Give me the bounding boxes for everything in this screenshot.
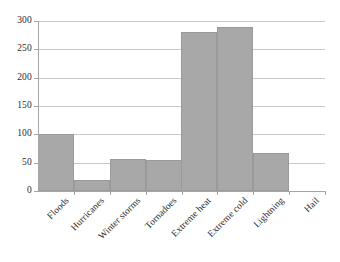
- x-axis-tick-mark: [74, 191, 75, 195]
- x-axis-tick-mark: [182, 191, 183, 195]
- x-axis-tick-mark: [289, 191, 290, 195]
- x-axis-tick-mark: [325, 191, 326, 195]
- x-axis-tick-mark: [217, 191, 218, 195]
- y-axis-tick-label: 150: [17, 101, 32, 111]
- x-axis-tick-mark: [110, 191, 111, 195]
- bar-chart: 050100150200250300 FloodsHurricanesWinte…: [0, 0, 340, 262]
- y-axis-tick-label: 250: [17, 45, 32, 55]
- x-axis-tick-label: Floods: [46, 196, 71, 221]
- x-axis-tick-mark: [146, 191, 147, 195]
- bar: [146, 160, 182, 191]
- bar: [74, 180, 110, 191]
- y-axis-line: [38, 21, 39, 192]
- bar: [253, 153, 289, 191]
- y-axis-tick-label: 50: [22, 158, 32, 168]
- x-axis-tick-label: Lightning: [252, 196, 286, 230]
- bar: [181, 32, 217, 191]
- y-axis-tick-label: 300: [17, 16, 32, 26]
- x-axis-tick-label: Hurricanes: [69, 196, 106, 233]
- y-axis-tick-label: 0: [27, 186, 32, 196]
- x-axis-tick-label: Hail: [303, 196, 322, 215]
- gridline: [38, 21, 325, 22]
- x-axis-tick-mark: [253, 191, 254, 195]
- plot-area: 050100150200250300: [38, 21, 325, 191]
- bar: [38, 134, 74, 191]
- bar: [217, 27, 253, 191]
- bar: [110, 159, 146, 191]
- y-axis-tick-label: 100: [17, 130, 32, 140]
- y-axis-tick-label: 200: [17, 73, 32, 83]
